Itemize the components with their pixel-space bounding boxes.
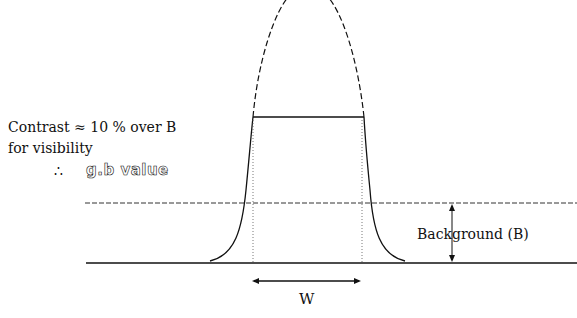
gaussian-right-side [364, 117, 405, 261]
background-arrow-down-head [449, 255, 455, 262]
background-arrow-up-head [449, 204, 455, 211]
width-label: W [299, 290, 314, 308]
visibility-label: for visibility [8, 140, 93, 156]
therefore-symbol: ∴ [54, 163, 63, 179]
contrast-label: Contrast ≈ 10 % over B [8, 119, 176, 135]
contrast-diagram: Contrast ≈ 10 % over B for visibility ∴ … [0, 0, 577, 318]
gb-value-label: g.b value [86, 161, 169, 179]
width-arrow-right-head [354, 278, 361, 284]
gaussian-left-side [210, 117, 253, 261]
diagram-graphics [0, 0, 577, 318]
width-arrow-left-head [252, 278, 259, 284]
background-label: Background (B) [417, 226, 529, 242]
gaussian-dashed-peak [253, 0, 364, 117]
